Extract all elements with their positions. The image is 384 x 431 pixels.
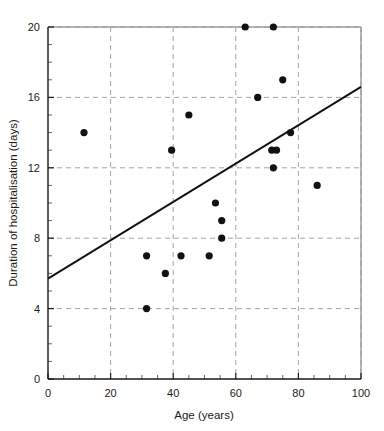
y-tick-label: 4	[34, 303, 40, 315]
x-tick-label: 80	[292, 387, 304, 399]
scatter-plot-figure: 020406080100 048121620 Age (years) Durat…	[0, 0, 384, 431]
data-point	[80, 129, 87, 136]
y-tick-label: 0	[34, 373, 40, 385]
data-point	[218, 217, 225, 224]
x-tick-label: 100	[352, 387, 370, 399]
data-point	[270, 23, 277, 30]
x-tick-label: 40	[167, 387, 179, 399]
data-point	[177, 252, 184, 259]
data-point	[287, 129, 294, 136]
y-tick-label: 20	[28, 21, 40, 33]
data-point	[314, 182, 321, 189]
data-point	[242, 23, 249, 30]
data-point	[218, 235, 225, 242]
data-point	[143, 305, 150, 312]
y-tick-label: 16	[28, 91, 40, 103]
data-point	[212, 199, 219, 206]
data-point	[143, 252, 150, 259]
chart-canvas: 020406080100 048121620 Age (years) Durat…	[0, 0, 384, 431]
y-tick-label: 8	[34, 232, 40, 244]
x-axis-title: Age (years)	[174, 409, 234, 421]
x-tick-label: 60	[230, 387, 242, 399]
x-tick-labels: 020406080100	[45, 387, 370, 399]
data-point	[162, 270, 169, 277]
data-point	[273, 147, 280, 154]
y-axis-title: Duration of hospitalisation (days)	[7, 119, 19, 287]
plot-area-background	[48, 27, 361, 379]
x-tick-label: 0	[45, 387, 51, 399]
data-point	[279, 76, 286, 83]
y-tick-label: 12	[28, 162, 40, 174]
data-point	[254, 94, 261, 101]
data-point	[185, 111, 192, 118]
data-point	[206, 252, 213, 259]
data-point	[270, 164, 277, 171]
y-tick-labels: 048121620	[28, 21, 40, 385]
data-point	[168, 147, 175, 154]
x-tick-label: 20	[104, 387, 116, 399]
